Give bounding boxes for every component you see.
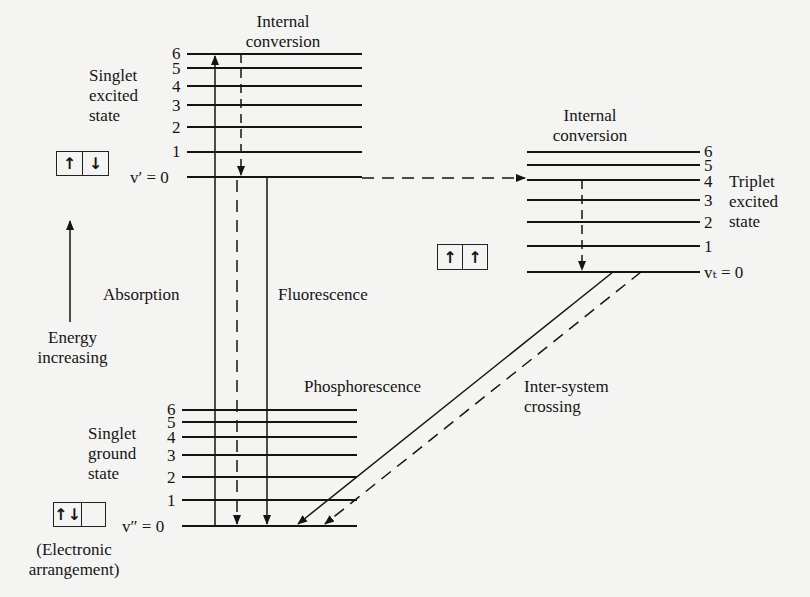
singlet-ground-state-label: Singlet ground state xyxy=(88,424,136,484)
level-number: 4 xyxy=(172,78,181,95)
label-line: crossing xyxy=(524,397,609,417)
level-number: 1 xyxy=(172,143,181,160)
empty-orbital xyxy=(81,503,105,526)
electron-box-singlet-ground: ↑↓ xyxy=(53,502,106,527)
label-line: excited xyxy=(89,86,138,106)
label-line: conversion xyxy=(540,126,640,146)
label-line: ground xyxy=(88,444,136,464)
energy-increasing-label: Energy increasing xyxy=(25,328,120,368)
level-number: 3 xyxy=(704,192,713,209)
level-number: 3 xyxy=(167,447,176,464)
label-line: conversion xyxy=(228,32,338,52)
label-line: Singlet xyxy=(88,424,136,444)
absorption-label: Absorption xyxy=(103,285,180,305)
level-number: 4 xyxy=(167,429,176,446)
electronic-arrangement-label: (Electronic arrangement) xyxy=(14,540,134,580)
singlet-excited-state-label: Singlet excited state xyxy=(89,66,138,126)
level-number: 2 xyxy=(167,469,176,486)
level-number: 1 xyxy=(167,492,176,509)
label-line: Internal xyxy=(540,106,640,126)
label-line: excited xyxy=(729,192,778,212)
spin-down-icon: ↓ xyxy=(82,152,108,175)
level-number: 4 xyxy=(704,173,713,190)
singlet-ground-levels xyxy=(182,410,357,526)
jablonski-diagram: Internal conversion 6 5 4 3 2 1 v′ = 0 S… xyxy=(0,0,810,597)
label-line: Triplet xyxy=(729,172,778,192)
phosphorescence-label: Phosphorescence xyxy=(304,377,421,397)
triplet-excited-state-label: Triplet excited state xyxy=(729,172,778,232)
internal-conversion-label-triplet: Internal conversion xyxy=(540,106,640,146)
spin-up-icon: ↑ xyxy=(57,152,82,175)
spin-up-icon: ↑ xyxy=(462,245,487,269)
v-prime-label: v′ = 0 xyxy=(130,169,169,186)
label-line: state xyxy=(89,106,138,126)
spin-up-icon: ↑ xyxy=(438,245,462,269)
label-line: Singlet xyxy=(89,66,138,86)
label-line: Inter-system xyxy=(524,377,609,397)
label-line: state xyxy=(729,212,778,232)
spin-pair-icon: ↑↓ xyxy=(54,503,81,526)
level-number: 1 xyxy=(704,238,713,255)
level-number: 3 xyxy=(172,97,181,114)
triplet-excited-levels xyxy=(527,152,700,272)
label-line: state xyxy=(88,464,136,484)
label-line: Energy xyxy=(25,328,120,348)
electron-box-triplet: ↑ ↑ xyxy=(437,244,488,270)
label-line: arrangement) xyxy=(14,560,134,580)
intersystem-crossing-label: Inter-system crossing xyxy=(524,377,609,417)
fluorescence-label: Fluorescence xyxy=(278,285,368,305)
internal-conversion-label-singlet: Internal conversion xyxy=(228,12,338,52)
electron-box-singlet-excited: ↑ ↓ xyxy=(56,151,109,176)
label-line: Internal xyxy=(228,12,338,32)
singlet-excited-levels xyxy=(187,54,362,177)
level-number: 5 xyxy=(172,60,181,77)
level-number: 2 xyxy=(704,214,713,231)
label-line: (Electronic xyxy=(14,540,134,560)
v-t-label: vₜ = 0 xyxy=(704,264,743,281)
label-line: increasing xyxy=(25,348,120,368)
level-number: 2 xyxy=(172,119,181,136)
v-double-prime-label: v″ = 0 xyxy=(122,518,164,535)
